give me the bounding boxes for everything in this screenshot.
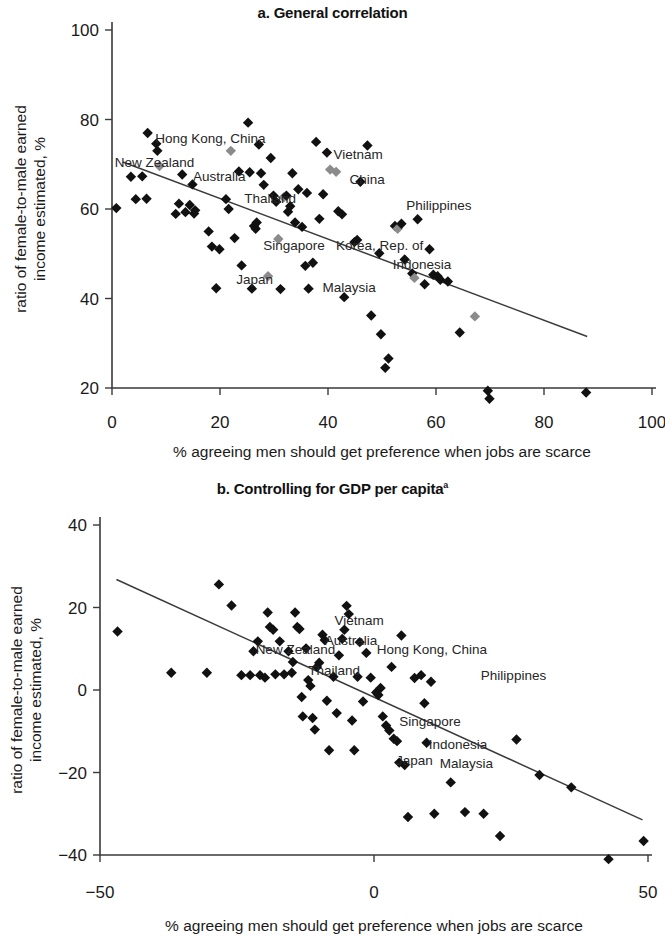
- x-axis-title: % agreeing men should get preference whe…: [173, 443, 591, 460]
- country-label: Australia: [193, 169, 246, 184]
- data-point: [483, 385, 493, 395]
- x-tick-label: 50: [639, 883, 658, 902]
- data-point: [358, 696, 368, 706]
- panel-b-controlling-gdp: b. Controlling for GDP per capitaa −40−2…: [0, 480, 665, 943]
- data-point: [214, 579, 224, 589]
- x-tick-label: 80: [535, 413, 554, 432]
- data-point: [310, 724, 320, 734]
- country-label: Indonesia: [429, 737, 488, 752]
- country-label: Singapore: [399, 714, 461, 729]
- data-point: [131, 194, 141, 204]
- data-point: [177, 169, 187, 179]
- data-point: [279, 669, 289, 679]
- data-point: [378, 711, 388, 721]
- data-point: [366, 672, 376, 682]
- data-point: [171, 209, 181, 219]
- y-tick-label: 60: [80, 200, 99, 219]
- panel-a-plot: 20406080100020406080100Hong Kong, ChinaN…: [0, 0, 665, 470]
- x-tick-label: 100: [638, 413, 665, 432]
- y-axis-title-line1: ratio of female-to-male earned: [12, 105, 29, 313]
- y-tick-label: −20: [58, 764, 87, 783]
- data-point: [376, 329, 386, 339]
- data-point: [266, 153, 276, 163]
- y-tick-label: 100: [71, 21, 99, 40]
- data-point: [174, 198, 184, 208]
- y-axis-title-group: ratio of female-to-male earnedincome est…: [8, 586, 44, 794]
- y-tick-label: 20: [80, 379, 99, 398]
- country-label: New Zealand: [115, 155, 195, 170]
- x-tick-label: 0: [369, 883, 378, 902]
- data-point: [236, 260, 246, 270]
- data-point: [460, 807, 470, 817]
- y-axis-title-line2: income estimated, %: [31, 137, 48, 281]
- x-tick-label: 0: [107, 413, 116, 432]
- data-point: [262, 607, 272, 617]
- country-label: China: [350, 172, 386, 187]
- data-point: [566, 782, 576, 792]
- data-point: [322, 147, 332, 157]
- y-axis-title-line1: ratio of female-to-male earned: [8, 586, 25, 794]
- axes-group: [100, 517, 652, 855]
- country-label: Malaysia: [440, 756, 494, 771]
- x-tick-label: 40: [319, 413, 338, 432]
- data-point: [419, 279, 429, 289]
- data-point: [424, 244, 434, 254]
- data-point: [366, 310, 376, 320]
- data-point: [112, 626, 122, 636]
- data-point: [298, 711, 308, 721]
- y-tick-label: 0: [78, 681, 87, 700]
- y-tick-label: −40: [58, 846, 87, 865]
- data-point: [275, 284, 285, 294]
- data-point: [396, 630, 406, 640]
- data-point: [446, 777, 456, 787]
- x-axis-title: % agreeing men should get preference whe…: [165, 917, 583, 934]
- country-label: New Zealand: [256, 642, 336, 657]
- figure-container: a. General correlation 20406080100020406…: [0, 0, 665, 943]
- data-point: [478, 809, 488, 819]
- data-point: [223, 204, 233, 214]
- country-label: Thailand: [308, 663, 360, 678]
- data-point: [349, 745, 359, 755]
- country-label: Korea, Rep. of: [336, 238, 423, 253]
- y-axis-title-line2: income estimated, %: [27, 618, 44, 762]
- data-point: [166, 667, 176, 677]
- data-point: [203, 226, 213, 236]
- data-point: [245, 167, 255, 177]
- country-label: Vietnam: [333, 147, 382, 162]
- data-point: [484, 394, 494, 404]
- y-tick-label: 80: [80, 111, 99, 130]
- country-label: Hong Kong, China: [155, 131, 266, 146]
- y-tick-label: 20: [68, 599, 87, 618]
- data-point: [426, 677, 436, 687]
- country-label: Japan: [396, 753, 433, 768]
- data-point: [311, 137, 321, 147]
- country-label: Vietnam: [335, 613, 384, 628]
- data-point: [429, 809, 439, 819]
- data-point: [287, 667, 297, 677]
- data-point-highlight: [226, 146, 236, 156]
- country-label: Hong Kong, China: [377, 642, 488, 657]
- data-point: [290, 607, 300, 617]
- country-label: Philippines: [481, 668, 547, 683]
- country-label: Japan: [236, 272, 273, 287]
- data-point: [226, 600, 236, 610]
- y-tick-label: 40: [80, 290, 99, 309]
- panel-a-general-correlation: a. General correlation 20406080100020406…: [0, 0, 665, 470]
- data-point: [141, 194, 151, 204]
- data-point: [334, 650, 344, 660]
- data-point: [638, 836, 648, 846]
- data-point: [314, 214, 324, 224]
- data-point: [380, 363, 390, 373]
- country-label: Indonesia: [393, 257, 452, 272]
- data-point: [495, 831, 505, 841]
- country-labels-group: Hong Kong, ChinaNew ZealandAustraliaThai…: [115, 131, 472, 295]
- data-point: [403, 812, 413, 822]
- data-point: [386, 662, 396, 672]
- data-point: [259, 180, 269, 190]
- data-point: [347, 715, 357, 725]
- x-tick-label: 60: [427, 413, 446, 432]
- x-tick-label: 20: [211, 413, 230, 432]
- data-point: [307, 713, 317, 723]
- data-point: [412, 214, 422, 224]
- axis-lines: [100, 517, 652, 855]
